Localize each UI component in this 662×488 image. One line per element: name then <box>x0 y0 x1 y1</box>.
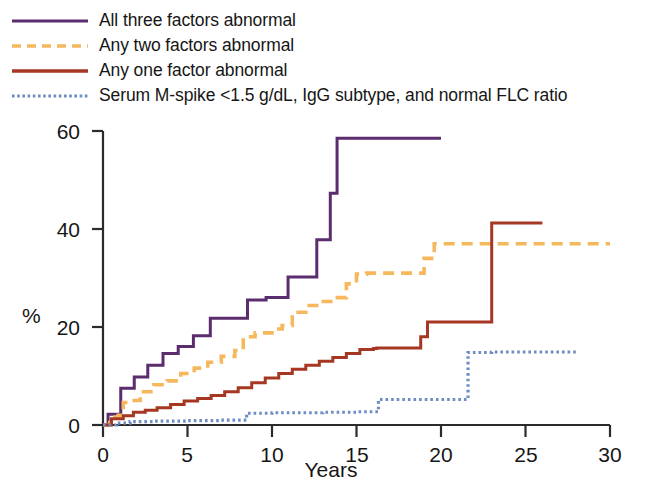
y-axis-label: % <box>22 305 41 326</box>
series-line-0 <box>103 138 441 425</box>
figure-container: All three factors abnormal Any two facto… <box>0 0 662 488</box>
legend-item-any-two-factors: Any two factors abnormal <box>12 33 652 58</box>
plot-area: 60 40 20 0 0 5 10 15 20 25 30 % Years <box>0 112 662 488</box>
legend-label-all-three-factors: All three factors abnormal <box>99 12 296 30</box>
legend-item-serum-mspike: Serum M-spike <1.5 g/dL, IgG subtype, an… <box>12 83 652 108</box>
legend-line-dotted-blue <box>12 89 88 103</box>
series-line-2 <box>103 223 542 425</box>
series-line-1 <box>103 244 610 425</box>
legend-line-solid-darkred <box>12 64 88 78</box>
chart-canvas <box>0 112 662 488</box>
legend-item-all-three-factors: All three factors abnormal <box>12 8 652 33</box>
legend-item-any-one-factor: Any one factor abnormal <box>12 58 652 83</box>
tick-marks <box>92 131 610 437</box>
legend-line-solid-purple <box>12 14 88 28</box>
x-axis-label: Years <box>0 459 662 480</box>
y-tick-label-0: 0 <box>42 415 80 436</box>
chart-legend: All three factors abnormal Any two facto… <box>12 8 652 108</box>
series-group <box>103 138 610 425</box>
y-tick-label-20: 20 <box>42 317 80 338</box>
legend-label-any-one-factor: Any one factor abnormal <box>99 62 287 80</box>
legend-label-serum-mspike: Serum M-spike <1.5 g/dL, IgG subtype, an… <box>99 87 567 105</box>
legend-label-any-two-factors: Any two factors abnormal <box>99 37 294 55</box>
y-tick-label-40: 40 <box>42 219 80 240</box>
legend-line-dashed-orange <box>12 39 88 53</box>
y-tick-label-60: 60 <box>42 121 80 142</box>
series-line-3 <box>103 352 576 425</box>
